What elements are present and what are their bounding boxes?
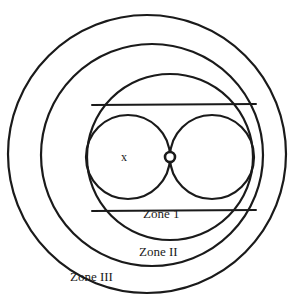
zone-1-label: Zone 1 bbox=[143, 207, 179, 220]
center-node-icon bbox=[165, 152, 175, 162]
right-lobe-circle bbox=[170, 115, 254, 199]
left-lobe-circle bbox=[86, 115, 170, 199]
zone-II-boundary-circle bbox=[41, 44, 263, 266]
zone-2-label: Zone II bbox=[139, 245, 178, 258]
point-x-label: x bbox=[121, 151, 127, 163]
upper-chord-line bbox=[92, 104, 256, 105]
zone-diagram: x Zone 1 Zone II Zone III bbox=[0, 0, 291, 302]
zone-3-label: Zone III bbox=[70, 270, 113, 283]
